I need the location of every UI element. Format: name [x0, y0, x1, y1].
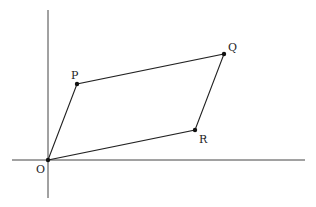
- label-r: R: [199, 133, 208, 146]
- coordinate-diagram: O P Q R: [0, 0, 316, 207]
- label-q: Q: [228, 41, 237, 54]
- point-p: [75, 82, 79, 86]
- point-o: [46, 158, 50, 162]
- point-q: [222, 52, 226, 56]
- point-r: [193, 128, 197, 132]
- label-p: P: [71, 69, 79, 82]
- label-o: O: [36, 163, 45, 176]
